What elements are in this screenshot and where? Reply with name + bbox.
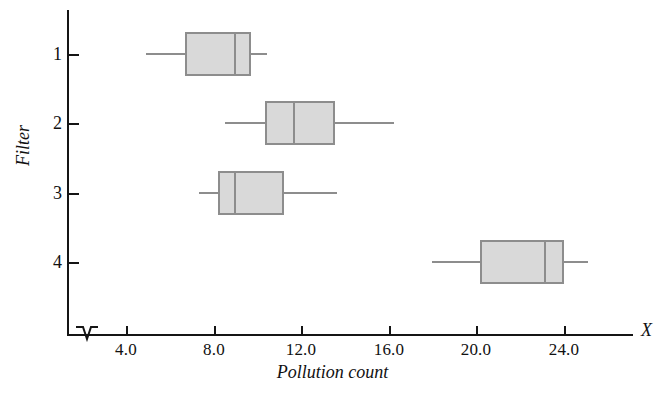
x-tick-label-4: 20.0 — [461, 340, 492, 360]
boxplot-figure: 4.0 8.0 12.0 16.0 20.0 24.0 1 2 3 4 Poll… — [0, 0, 665, 412]
whisker-high-3 — [284, 192, 337, 194]
y-tick-mark-3 — [69, 262, 79, 264]
y-tick-label-1: 2 — [38, 113, 62, 134]
median-line-2 — [293, 101, 295, 145]
whisker-high-4 — [564, 261, 588, 263]
x-tick-mark-0 — [126, 326, 128, 335]
whisker-high-2 — [335, 122, 394, 124]
box-1 — [185, 32, 251, 76]
y-tick-mark-2 — [69, 193, 79, 195]
y-axis-title: Filter — [13, 101, 34, 191]
x-tick-label-0: 4.0 — [115, 340, 137, 360]
x-axis-variable-label: X — [641, 320, 652, 341]
x-tick-label-5: 24.0 — [549, 340, 580, 360]
x-tick-mark-1 — [214, 326, 216, 335]
whisker-low-2 — [225, 122, 265, 124]
whisker-low-3 — [199, 192, 219, 194]
x-tick-mark-2 — [301, 326, 303, 335]
median-line-4 — [544, 240, 546, 284]
box-2 — [265, 101, 335, 145]
x-axis-title: Pollution count — [0, 362, 665, 383]
y-axis-line — [67, 10, 69, 336]
box-4 — [480, 240, 564, 284]
x-tick-label-3: 16.0 — [374, 340, 405, 360]
x-tick-label-1: 8.0 — [203, 340, 225, 360]
y-tick-label-3: 4 — [38, 252, 62, 273]
whisker-low-4 — [432, 261, 480, 263]
median-line-3 — [234, 171, 236, 215]
whisker-high-1 — [251, 53, 266, 55]
x-axis-line — [67, 334, 633, 336]
x-tick-mark-5 — [564, 326, 566, 335]
y-tick-mark-1 — [69, 123, 79, 125]
axis-break-icon — [76, 326, 98, 342]
median-line-1 — [234, 32, 236, 76]
x-tick-mark-4 — [476, 326, 478, 335]
box-3 — [218, 171, 284, 215]
x-tick-label-2: 12.0 — [286, 340, 317, 360]
whisker-low-1 — [146, 53, 186, 55]
y-tick-label-2: 3 — [38, 183, 62, 204]
y-tick-label-0: 1 — [38, 44, 62, 65]
x-tick-mark-3 — [389, 326, 391, 335]
y-tick-mark-0 — [69, 54, 79, 56]
